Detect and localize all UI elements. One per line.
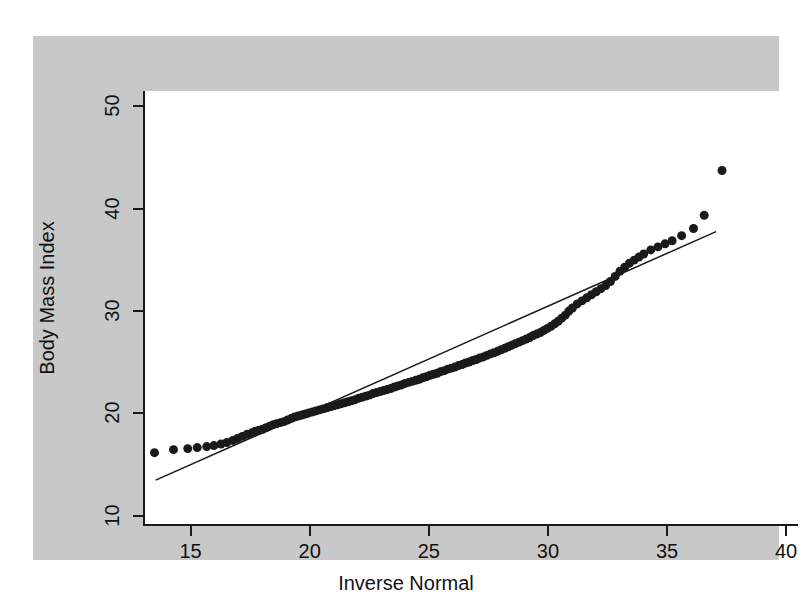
reference-line-segment — [156, 232, 716, 481]
data-point — [677, 231, 686, 240]
chart-figure: Body Mass Index 1020304050 152025303540 … — [33, 36, 779, 560]
y-tick-mark — [133, 515, 143, 517]
x-tick-mark — [785, 526, 787, 536]
data-point — [700, 211, 709, 220]
x-tick-label: 35 — [642, 540, 692, 563]
y-tick-mark — [133, 412, 143, 414]
data-point — [193, 443, 202, 452]
data-point — [150, 448, 159, 457]
x-tick-mark — [666, 526, 668, 536]
figure-page: Body Mass Index 1020304050 152025303540 … — [0, 0, 812, 595]
plot-area — [143, 91, 798, 526]
y-tick-label: 20 — [101, 400, 124, 426]
plot-canvas — [145, 91, 798, 524]
y-tick-label: 30 — [101, 298, 124, 324]
x-tick-label: 25 — [404, 540, 454, 563]
x-tick-mark — [547, 526, 549, 536]
scatter-points — [150, 166, 726, 457]
data-point — [718, 166, 727, 175]
y-tick-mark — [133, 310, 143, 312]
x-tick-mark — [428, 526, 430, 536]
y-tick-mark — [133, 105, 143, 107]
x-tick-label: 20 — [285, 540, 335, 563]
x-axis-label: Inverse Normal — [33, 572, 779, 595]
reference-line — [156, 232, 716, 481]
y-tick-mark — [133, 208, 143, 210]
x-tick-mark — [309, 526, 311, 536]
y-tick-label: 40 — [101, 195, 124, 221]
data-point — [668, 236, 677, 245]
x-tick-label: 30 — [523, 540, 573, 563]
data-point — [689, 224, 698, 233]
y-axis-label: Body Mass Index — [36, 221, 59, 374]
x-tick-mark — [190, 526, 192, 536]
x-tick-label: 15 — [166, 540, 216, 563]
y-tick-label: 10 — [101, 502, 124, 528]
data-point — [183, 444, 192, 453]
x-tick-label: 40 — [761, 540, 811, 563]
data-point — [169, 445, 178, 454]
y-tick-label: 50 — [101, 93, 124, 119]
